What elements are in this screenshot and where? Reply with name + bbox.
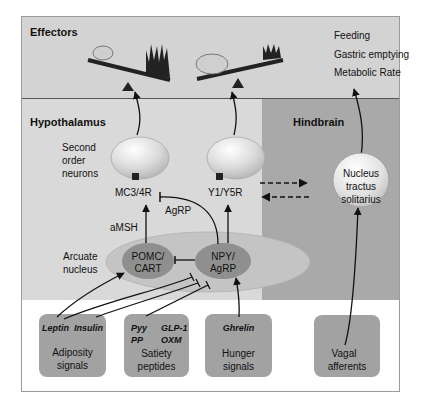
glp1-label: GLP-1	[161, 322, 188, 334]
nts-label-1: Nucleus	[333, 168, 389, 180]
pyy-label: Pyy	[131, 322, 147, 334]
agrp-label: AgRP	[165, 205, 191, 217]
second-order-label-3: neurons	[62, 168, 98, 180]
hunger-label-1: Hunger	[205, 348, 272, 360]
insulin-label: Insulin	[74, 322, 103, 334]
leptin-label: Leptin	[42, 322, 69, 334]
hindbrain-title: Hindbrain	[293, 116, 344, 128]
second-order-label-1: Second	[62, 142, 96, 154]
nts-label-2: tractus	[333, 181, 389, 193]
npy-label-1: NPY/	[203, 251, 243, 263]
ghrelin-label: Ghrelin	[205, 322, 272, 334]
vagal-label-1: Vagal	[314, 348, 374, 360]
effect-metabolic-rate: Metabolic Rate	[334, 67, 401, 79]
effectors-title: Effectors	[30, 26, 78, 38]
adiposity-label-2: signals	[39, 360, 106, 372]
satiety-label-1: Satiety	[124, 348, 189, 360]
pp-label: PP	[131, 334, 143, 346]
effect-gastric-emptying: Gastric emptying	[334, 49, 409, 61]
satiety-label-2: peptides	[124, 361, 189, 373]
oxm-label: OXM	[161, 334, 182, 346]
arcuate-label-2: nucleus	[63, 264, 97, 276]
mc34r-receptor-label: MC3/4R	[115, 187, 152, 199]
adiposity-label-1: Adiposity	[39, 347, 106, 359]
hypothalamus-title: Hypothalamus	[30, 116, 106, 128]
nts-label-3: solitarius	[333, 194, 389, 206]
effect-feeding: Feeding	[334, 30, 370, 42]
hunger-label-2: signals	[205, 361, 272, 373]
second-order-label-2: order	[62, 155, 85, 167]
seesaw-right-icon	[196, 44, 283, 88]
npy-label-2: AgRP	[203, 263, 243, 275]
y1y5r-receptor-label: Y1/Y5R	[208, 187, 242, 199]
vagal-label-2: afferents	[314, 361, 380, 373]
amsh-label: aMSH	[110, 222, 138, 234]
pomc-label-2: CART	[128, 263, 168, 275]
seesaw-left-icon	[88, 44, 170, 91]
pomc-label-1: POMC/	[128, 251, 168, 263]
arcuate-label-1: Arcuate	[63, 251, 97, 263]
